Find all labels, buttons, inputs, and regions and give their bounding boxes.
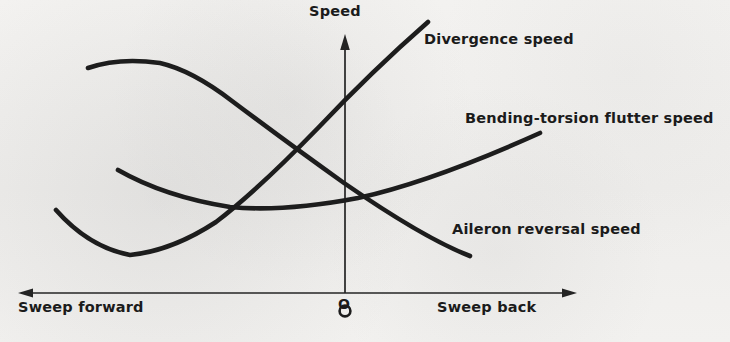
plot-area [0, 0, 730, 342]
curve-label-bending-torsion-flutter-speed: Bending-torsion flutter speed [465, 110, 714, 126]
x-axis-label-sweep-back: Sweep back [437, 299, 536, 315]
x-axis [18, 289, 577, 298]
aeroelastic-speed-diagram: Speed Divergence speed Bending-torsion f… [0, 0, 730, 342]
y-axis [340, 34, 350, 293]
y-axis-label: Speed [309, 3, 361, 19]
curve-label-divergence-speed: Divergence speed [424, 31, 574, 47]
origin-label: O [338, 296, 350, 312]
x-axis-label-sweep-forward: Sweep forward [18, 299, 144, 315]
curve-aileron-reversal-speed [88, 61, 470, 256]
curve-label-aileron-reversal-speed: Aileron reversal speed [452, 221, 641, 237]
curve-divergence-speed [56, 22, 428, 255]
